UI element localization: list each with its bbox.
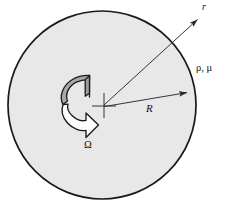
label-radius: R	[146, 103, 153, 114]
label-radial-coordinate: r	[202, 2, 206, 12]
label-fluid-properties: ρ, μ	[196, 63, 212, 74]
disc-body	[8, 11, 196, 199]
figure-canvas: r ρ, μ R Ω	[0, 0, 230, 211]
figure-diagram-svg	[0, 0, 230, 211]
label-angular-velocity: Ω	[84, 140, 92, 151]
